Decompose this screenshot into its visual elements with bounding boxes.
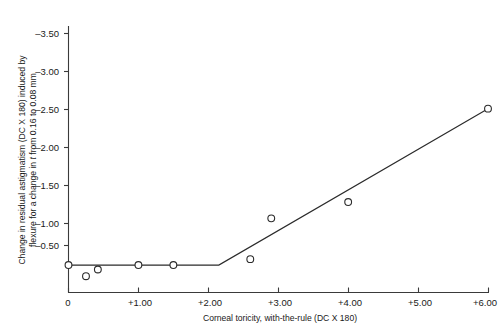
data-point-marker [94, 266, 101, 273]
data-point-marker [345, 199, 352, 206]
data-points-on-line [65, 105, 491, 268]
y-axis-title-line2-post: from 0.16 to 0.08 mm [28, 73, 38, 157]
x-tick-label: +3.00 [268, 297, 292, 308]
y-tick-label: –2.50 [35, 104, 59, 115]
x-tick-label: +4.00 [338, 297, 362, 308]
chart-plot-area: –3.50 –3.00 –2.50 –2.00 –1.50 –1.00 –0.5… [0, 0, 500, 333]
x-tick-label: +1.00 [128, 297, 152, 308]
y-tick-label: –1.50 [35, 180, 59, 191]
data-point-marker [170, 262, 177, 269]
y-axis-title-line1: Change in residual astigmatism (DC X 180… [17, 55, 27, 265]
off-line-data-points [83, 215, 275, 280]
fitted-model-line [69, 109, 489, 265]
x-tick-label: +6.00 [473, 297, 497, 308]
y-tick-label: –1.00 [35, 218, 59, 229]
y-axis-title-line2-pre: flexure for a change in [28, 160, 38, 247]
y-tick-label: –3.50 [35, 28, 59, 39]
data-point-marker [135, 262, 142, 269]
y-tick-label: –0.50 [35, 240, 59, 251]
x-axis-tick-labels: 0 +1.00 +2.00 +3.00 +4.00 +5.00 +6.00 [65, 297, 497, 308]
data-point-marker [83, 273, 90, 280]
x-tick-label: +5.00 [408, 297, 432, 308]
data-point-marker [485, 105, 492, 112]
y-axis-ticks [64, 34, 69, 246]
chart-container: –3.50 –3.00 –2.50 –2.00 –1.50 –1.00 –0.5… [0, 0, 500, 333]
data-point-marker [65, 262, 72, 269]
x-axis-ticks [69, 288, 489, 293]
data-point-marker [268, 215, 275, 222]
x-axis-title: Corneal toricity, with-the-rule (DC X 18… [203, 313, 357, 323]
x-tick-label: 0 [65, 297, 70, 308]
data-point-marker [247, 256, 254, 263]
y-tick-label: –2.00 [35, 142, 59, 153]
y-axis-tick-labels: –3.50 –3.00 –2.50 –2.00 –1.50 –1.00 –0.5… [35, 28, 59, 251]
x-tick-label: +2.00 [198, 297, 222, 308]
y-axis-title-line2: flexure for a change in t from 0.16 to 0… [28, 73, 38, 247]
y-tick-label: –3.00 [35, 66, 59, 77]
